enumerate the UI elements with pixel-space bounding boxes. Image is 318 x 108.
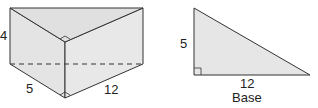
triangular-prism: 4 5 12	[0, 8, 143, 98]
right-triangle-base: 5 12 Base	[180, 8, 310, 105]
triangle-base-length-label: 12	[240, 76, 254, 91]
prism-leg-b-label: 12	[104, 82, 118, 97]
prism-height-label: 4	[0, 28, 7, 43]
triangle-height-label: 5	[180, 36, 187, 51]
prism-leg-a-label: 5	[26, 81, 33, 96]
triangle-base-caption: Base	[232, 90, 262, 105]
diagram-canvas: 4 5 12 5 12 Base	[0, 0, 318, 108]
triangle-shape	[194, 8, 310, 75]
